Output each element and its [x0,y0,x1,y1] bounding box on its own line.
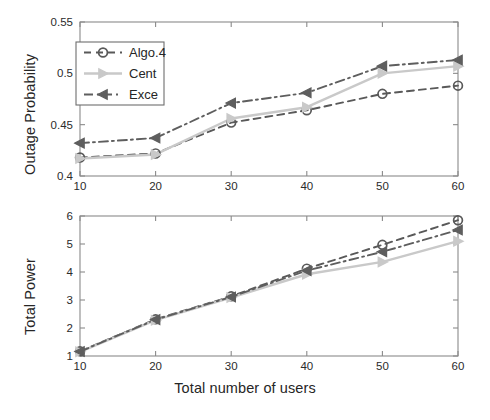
y-tick-label: 4 [67,266,74,278]
y-tick-label: 5 [67,238,73,250]
y-tick-label: 0.4 [57,170,74,182]
x-tick-label: 50 [376,360,389,372]
data-point-cent [378,257,387,267]
y-tick-label: 1 [67,350,73,362]
x-tick-label: 20 [149,180,162,192]
x-tick-label: 30 [225,360,238,372]
x-tick-label: 60 [452,360,465,372]
y-tick-label: 6 [67,210,73,222]
y-axis-label-top: Outage Probability [22,54,38,175]
x-tick-label: 40 [300,180,313,192]
plot-area-top: 1020304050600.40.450.50.55Algo.4CentExce [0,0,490,200]
y-tick-label: 0.45 [51,119,73,131]
figure-container: Outage Probability 1020304050600.40.450.… [0,0,490,420]
y-tick-label: 3 [67,294,73,306]
x-tick-label: 10 [74,180,87,192]
chart-outage-probability: Outage Probability 1020304050600.40.450.… [0,0,490,200]
y-tick-label: 0.5 [57,67,73,79]
x-tick-label: 60 [452,180,465,192]
x-tick-label: 20 [149,360,162,372]
legend-label: Cent [129,66,157,81]
legend: Algo.4CentExce [76,42,166,105]
data-point-exce [150,133,159,143]
series-line-cent [80,241,458,352]
legend-label: Exce [129,87,158,102]
legend-label: Algo.4 [129,45,166,60]
y-tick-label: 0.55 [51,16,73,28]
data-point-exce [302,88,311,98]
y-tick-label: 2 [67,322,73,334]
data-point-exce [226,98,235,108]
x-tick-label: 10 [74,360,87,372]
series-line-exce [80,230,458,352]
y-axis-label-bottom: Total Power [22,258,38,335]
x-tick-label: 40 [300,360,313,372]
x-tick-label: 30 [225,180,238,192]
x-axis-label: Total number of users [0,380,490,396]
x-tick-label: 50 [376,180,389,192]
